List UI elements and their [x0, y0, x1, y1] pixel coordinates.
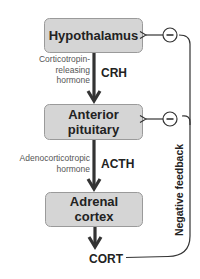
anterior-pituitary-node: Anterior pituitary	[45, 105, 143, 140]
hypothalamus-node: Hypothalamus	[45, 19, 143, 53]
crh-name-line-3: hormone	[56, 75, 90, 85]
crh-name-line-2: releasing	[56, 65, 91, 75]
anterior-pituitary-label-line-1: Anterior	[68, 107, 119, 122]
adrenal-cortex-label-line-2: cortex	[74, 209, 114, 224]
cort-label: CORT	[89, 252, 124, 266]
adrenal-cortex-node: Adrenal cortex	[46, 193, 143, 227]
adrenal-cortex-label-line-1: Adrenal	[70, 194, 118, 209]
negative-feedback-label: Negative feedback	[173, 144, 185, 236]
cort-arrow	[89, 227, 101, 247]
acth-name-line-1: Adenocorticotropic	[20, 153, 91, 163]
crh-abbr: CRH	[101, 66, 127, 80]
hypothalamus-label: Hypothalamus	[49, 28, 139, 43]
hpa-axis-diagram: Hypothalamus Corticotropin- releasing ho…	[0, 0, 200, 279]
acth-abbr: ACTH	[101, 157, 134, 171]
acth-name-line-2: hormone	[56, 164, 90, 174]
crh-name-line-1: Corticotropin-	[39, 54, 90, 64]
anterior-pituitary-label-line-2: pituitary	[68, 122, 120, 137]
feedback-line-upper	[179, 35, 190, 125]
